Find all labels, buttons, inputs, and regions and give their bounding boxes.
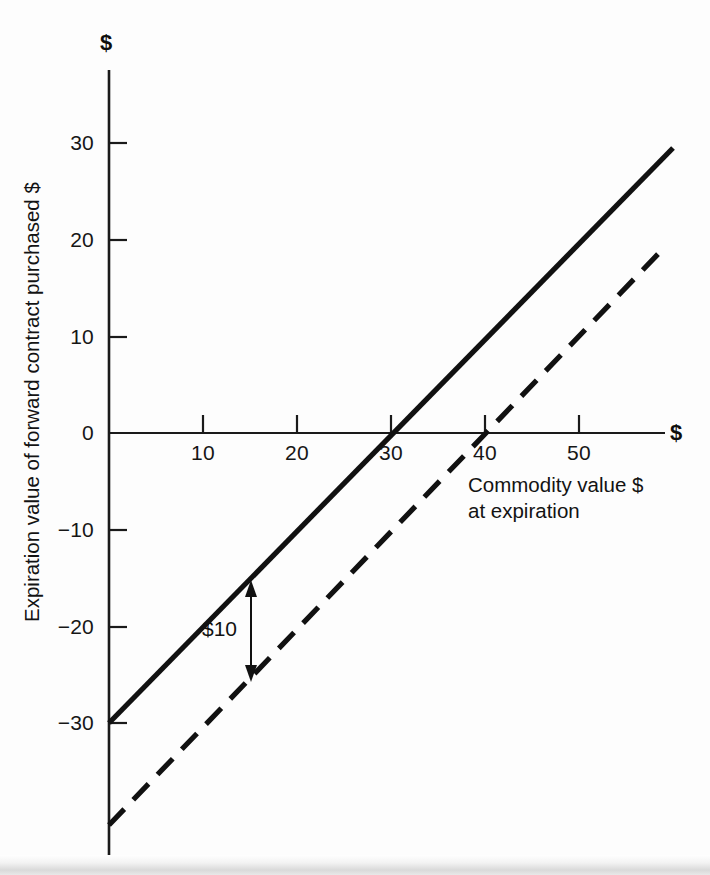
series-line-dashed bbox=[109, 252, 660, 825]
y-tick-label-minus-30: −30 bbox=[12, 711, 94, 735]
x-axis-title-line-2: at expiration bbox=[468, 498, 643, 524]
x-axis-title-line-1: Commodity value $ bbox=[468, 472, 643, 498]
gap-annotation-label: $10 bbox=[202, 617, 237, 641]
series-line-solid bbox=[109, 148, 673, 723]
x-tick-label-20: 20 bbox=[285, 441, 309, 465]
x-tick-label-30: 30 bbox=[379, 441, 403, 465]
x-tick-label-40: 40 bbox=[473, 441, 497, 465]
y-tick-label-30: 30 bbox=[12, 131, 94, 155]
x-tick-label-10: 10 bbox=[191, 441, 215, 465]
x-axis-unit-label: $ bbox=[670, 420, 682, 446]
y-axis-title: Expiration value of forward contract pur… bbox=[20, 202, 44, 622]
gap-arrow-annotation bbox=[245, 580, 257, 682]
x-tick-label-50: 50 bbox=[567, 441, 591, 465]
chart-plot-area bbox=[0, 0, 710, 875]
y-axis-unit-label: $ bbox=[100, 30, 112, 56]
x-axis-ticks bbox=[203, 415, 579, 433]
page-edge-artifact bbox=[0, 855, 710, 875]
x-axis-title: Commodity value $ at expiration bbox=[468, 472, 643, 524]
chart-figure: $ $ 30 20 10 0 −10 −20 −30 10 20 30 40 5… bbox=[0, 0, 710, 875]
